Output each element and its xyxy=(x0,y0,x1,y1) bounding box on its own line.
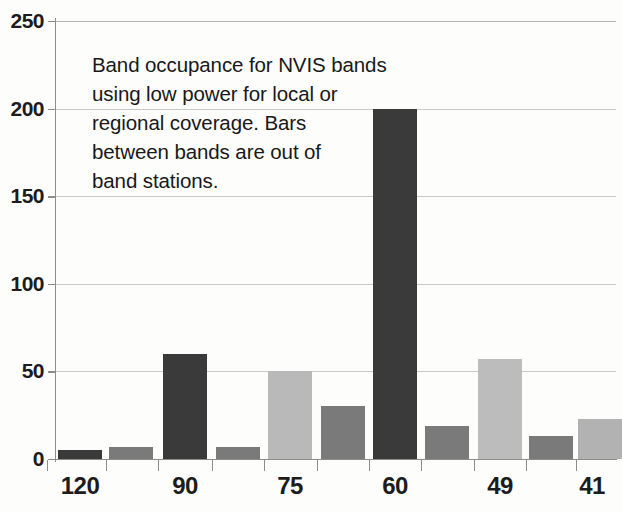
bar xyxy=(268,371,312,459)
x-axis-tick xyxy=(369,460,370,471)
y-axis-tick xyxy=(48,459,55,460)
bar xyxy=(109,447,153,459)
x-axis-label: 41 xyxy=(579,472,605,500)
bar-chart: 050100150200250 1209075604941 Band occup… xyxy=(0,0,622,512)
bar xyxy=(163,354,207,459)
annotation-line: using low power for local or xyxy=(92,79,392,108)
bar xyxy=(478,359,522,459)
x-axis-label: 120 xyxy=(61,472,100,500)
x-axis-tick xyxy=(317,460,318,471)
annotation-line: band stations. xyxy=(92,166,392,195)
x-axis-label: 90 xyxy=(172,472,198,500)
x-axis-tick xyxy=(264,460,265,471)
x-axis-label: 75 xyxy=(277,472,303,500)
x-axis-label: 60 xyxy=(382,472,408,500)
chart-annotation: Band occupance for NVIS bandsusing low p… xyxy=(92,50,392,195)
x-axis-tick xyxy=(106,460,107,471)
x-axis-tick xyxy=(158,460,159,471)
bar xyxy=(321,406,365,459)
bar xyxy=(425,426,469,459)
bar xyxy=(529,436,573,459)
annotation-line: Band occupance for NVIS bands xyxy=(92,50,392,79)
annotation-line: between bands are out of xyxy=(92,137,392,166)
x-axis-label: 49 xyxy=(487,472,513,500)
x-axis-tick xyxy=(474,460,475,471)
x-axis-tick xyxy=(421,460,422,471)
bar xyxy=(58,450,102,459)
x-axis-tick xyxy=(576,460,577,471)
annotation-line: regional coverage. Bars xyxy=(92,108,392,137)
bar xyxy=(578,419,622,459)
x-axis-tick xyxy=(47,460,48,471)
x-axis-tick xyxy=(212,460,213,471)
x-axis-tick xyxy=(526,460,527,471)
x-axis-line xyxy=(55,459,617,460)
bar xyxy=(216,447,260,459)
